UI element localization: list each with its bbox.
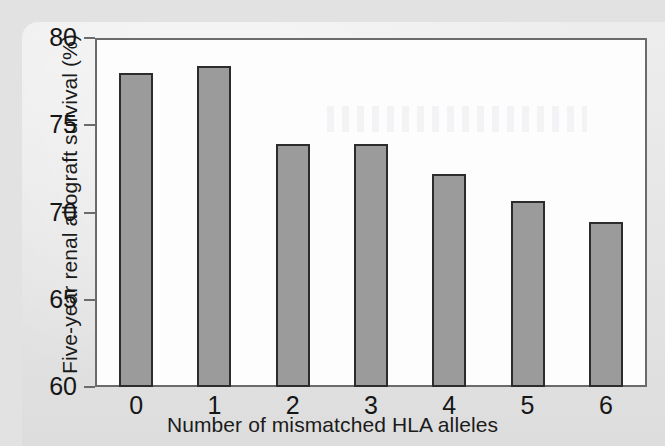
y-axis-tick-mark (84, 212, 95, 214)
y-axis-tick-mark (84, 37, 95, 39)
y-axis-tick-mark (84, 124, 95, 126)
y-axis-tick-label: 75 (49, 110, 77, 138)
bar (276, 144, 310, 387)
y-axis-tick-label: 65 (49, 285, 77, 313)
bar (197, 66, 231, 387)
y-axis-ticks: 6065707580 (0, 38, 95, 387)
x-axis-label: Number of mismatched HLA alleles (0, 413, 665, 437)
bar (511, 201, 545, 387)
y-axis-tick-label: 70 (49, 198, 77, 226)
bar (119, 73, 153, 387)
bar-slot (119, 40, 153, 387)
bar-series (97, 40, 645, 387)
bar-slot (511, 40, 545, 387)
bar (432, 174, 466, 387)
bar-slot (276, 40, 310, 387)
figure-container: Five-year renal allograft survival (%) 6… (0, 0, 665, 446)
bar-slot (354, 40, 388, 387)
y-axis-tick-mark (84, 299, 95, 301)
y-axis-tick-label: 60 (49, 372, 77, 400)
bar-slot (589, 40, 623, 387)
bar-slot (197, 40, 231, 387)
y-axis-tick-label: 80 (49, 23, 77, 51)
bar-slot (432, 40, 466, 387)
bar (589, 222, 623, 387)
bar (354, 144, 388, 387)
y-axis-tick-mark (84, 386, 95, 388)
